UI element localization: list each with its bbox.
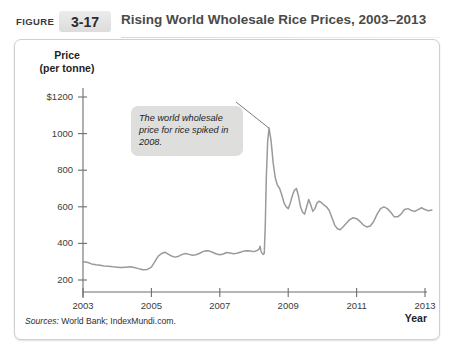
annotation-text: The world wholesale price for rice spike… [139,112,235,149]
x-tick-label: 2013 [400,300,450,311]
x-tick-label: 2011 [332,300,382,311]
figure-word: FIGURE [16,16,54,27]
x-tick-label: 2005 [126,300,176,311]
header-divider [121,37,441,38]
y-tick-label: 1000 [19,128,73,139]
chart-svg [15,40,439,339]
figure-screenshot: FIGURE 3-17 Rising World Wholesale Rice … [0,0,451,351]
x-tick-label: 2003 [58,300,108,311]
y-tick-label: 600 [19,201,73,212]
source-note: Sources: World Bank; IndexMundi.com. [25,316,176,326]
y-tick-label: 800 [19,164,73,175]
figure-number: 3-17 [59,14,111,30]
chart-panel: Price (per tonne) Year 2004006008001000$… [14,39,440,340]
figure-title: Rising World Wholesale Rice Prices, 2003… [121,12,426,27]
x-tick-label: 2007 [195,300,245,311]
y-tick-label: $1200 [19,91,73,102]
chart-plot-area: Price (per tonne) Year 2004006008001000$… [15,40,439,339]
source-text: World Bank; IndexMundi.com. [61,316,175,326]
y-tick-label: 400 [19,237,73,248]
y-tick-label: 200 [19,274,73,285]
annotation-callout: The world wholesale price for rice spike… [131,106,243,156]
x-tick-label: 2009 [263,300,313,311]
source-label: Sources: [25,316,59,326]
figure-number-badge: 3-17 [59,11,111,32]
figure-header: FIGURE 3-17 Rising World Wholesale Rice … [0,10,451,34]
